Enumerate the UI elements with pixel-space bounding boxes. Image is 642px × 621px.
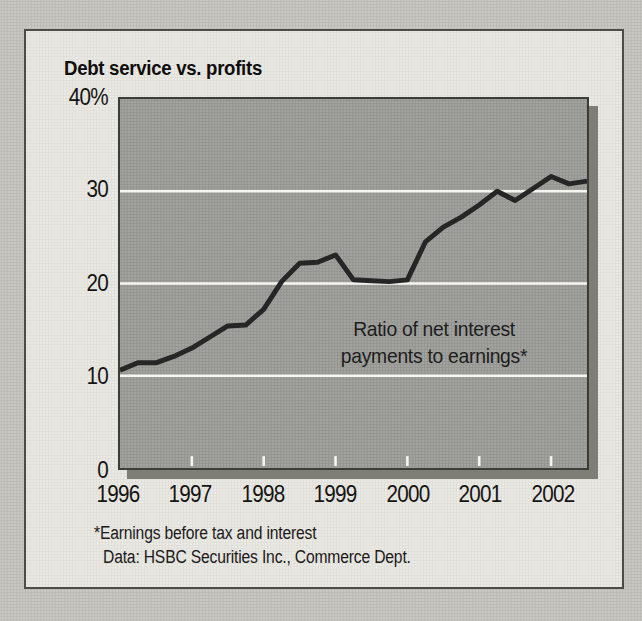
plot-area: Ratio of net interest payments to earnin…: [118, 97, 589, 470]
y-axis-label-10: 10: [46, 363, 108, 389]
footnote: *Earnings before tax and interest: [94, 521, 316, 545]
y-axis-label-20: 20: [46, 270, 108, 296]
x-axis-label-2000: 2000: [372, 481, 444, 507]
scanned-page-background: Debt service vs. profits 40% 30 20 10 0 …: [0, 0, 642, 621]
chart-title: Debt service vs. profits: [64, 57, 262, 80]
line-chart-canvas: [120, 99, 587, 468]
x-axis-label-1997: 1997: [154, 481, 226, 507]
x-axis-label-2001: 2001: [444, 481, 516, 507]
x-axis-label-1996: 1996: [82, 481, 154, 507]
chart-card: Debt service vs. profits 40% 30 20 10 0 …: [24, 29, 624, 589]
y-axis-label-40: 40%: [46, 84, 108, 110]
x-axis-label-1998: 1998: [227, 481, 299, 507]
y-axis-label-30: 30: [46, 176, 108, 202]
x-axis-label-1999: 1999: [299, 481, 371, 507]
source-credit: Data: HSBC Securities Inc., Commerce Dep…: [103, 545, 411, 569]
debt-service-ratio-line: [120, 176, 587, 370]
x-axis-label-2002: 2002: [517, 481, 589, 507]
